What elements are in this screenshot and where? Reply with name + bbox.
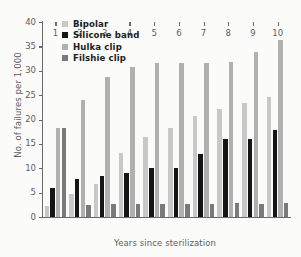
bar-hulka-clip-year-9 bbox=[254, 52, 259, 217]
bar-silicone-band-year-3 bbox=[100, 176, 105, 217]
x-axis-tick-mark bbox=[253, 22, 254, 26]
y-axis-tick-label: 30 bbox=[25, 65, 36, 75]
y-axis-title: No. of failures per 1,000 bbox=[11, 5, 25, 205]
x-axis-tick-mark bbox=[179, 22, 180, 26]
bar-filshie-clip-year-1 bbox=[62, 128, 67, 217]
bar-hulka-clip-year-5 bbox=[155, 63, 160, 217]
y-axis-tick-label: 40 bbox=[25, 17, 36, 27]
bar-silicone-band-year-2 bbox=[75, 179, 80, 217]
bar-filshie-clip-year-4 bbox=[136, 204, 141, 217]
bar-bipolar-year-1 bbox=[45, 206, 50, 217]
y-axis-tick-mark bbox=[39, 120, 43, 121]
bar-hulka-clip-year-4 bbox=[130, 67, 135, 217]
bar-silicone-band-year-8 bbox=[223, 139, 228, 217]
bar-filshie-clip-year-3 bbox=[111, 204, 116, 217]
bar-filshie-clip-year-8 bbox=[235, 203, 240, 217]
legend-label: Silicone band bbox=[73, 30, 139, 40]
bar-hulka-clip-year-3 bbox=[105, 77, 110, 217]
legend-swatch-icon bbox=[62, 32, 68, 38]
x-axis-tick-label: 10 bbox=[268, 28, 288, 38]
y-axis-tick-mark bbox=[39, 71, 43, 72]
bar-hulka-clip-year-8 bbox=[229, 62, 234, 217]
y-axis-tick-label: 25 bbox=[25, 90, 36, 100]
y-axis-tick-mark bbox=[39, 46, 43, 47]
x-axis-tick-label: 5 bbox=[144, 28, 164, 38]
y-axis-tick-mark bbox=[39, 22, 43, 23]
legend-item-filshie-clip: Filshie clip bbox=[62, 53, 139, 65]
bar-filshie-clip-year-6 bbox=[185, 204, 190, 217]
bar-silicone-band-year-5 bbox=[149, 168, 154, 217]
y-axis-tick-label: 20 bbox=[25, 114, 36, 124]
bar-filshie-clip-year-9 bbox=[259, 204, 264, 217]
y-axis-tick-mark bbox=[39, 217, 43, 218]
legend-swatch-icon bbox=[62, 55, 68, 61]
bar-hulka-clip-year-1 bbox=[56, 128, 61, 217]
bar-hulka-clip-year-10 bbox=[278, 40, 283, 217]
x-axis-tick-mark bbox=[278, 22, 279, 26]
x-axis-tick-label: 7 bbox=[194, 28, 214, 38]
bar-filshie-clip-year-5 bbox=[160, 204, 165, 217]
legend-label: Hulka clip bbox=[73, 42, 122, 52]
bar-hulka-clip-year-7 bbox=[204, 63, 209, 217]
bar-silicone-band-year-7 bbox=[198, 154, 203, 217]
bar-bipolar-year-5 bbox=[143, 137, 148, 217]
bar-silicone-band-year-4 bbox=[124, 173, 129, 217]
bar-hulka-clip-year-6 bbox=[179, 63, 184, 217]
x-axis-tick-label: 9 bbox=[243, 28, 263, 38]
x-axis-tick-mark bbox=[228, 22, 229, 26]
bar-bipolar-year-4 bbox=[119, 153, 124, 217]
failure-rate-bar-chart: No. of failures per 1,000 Years since st… bbox=[0, 0, 301, 257]
bar-silicone-band-year-10 bbox=[273, 130, 278, 217]
legend-item-bipolar: Bipolar bbox=[62, 18, 139, 30]
y-axis-tick-mark bbox=[39, 168, 43, 169]
bar-bipolar-year-2 bbox=[69, 194, 74, 217]
bar-bipolar-year-7 bbox=[193, 116, 198, 217]
bar-hulka-clip-year-2 bbox=[81, 100, 86, 217]
bar-bipolar-year-9 bbox=[242, 103, 247, 217]
y-axis-tick-label: 0 bbox=[31, 212, 36, 222]
bar-silicone-band-year-1 bbox=[50, 188, 55, 217]
bar-bipolar-year-8 bbox=[217, 109, 222, 217]
y-axis-tick-mark bbox=[39, 144, 43, 145]
legend-label: Bipolar bbox=[73, 19, 108, 29]
x-axis-tick-mark bbox=[55, 22, 56, 26]
x-axis-tick-mark bbox=[204, 22, 205, 26]
legend-item-hulka-clip: Hulka clip bbox=[62, 41, 139, 53]
bar-filshie-clip-year-2 bbox=[86, 205, 91, 217]
legend-swatch-icon bbox=[62, 21, 68, 27]
y-axis-tick-mark bbox=[39, 193, 43, 194]
bar-bipolar-year-10 bbox=[267, 97, 272, 217]
x-axis-tick-label: 8 bbox=[218, 28, 238, 38]
legend-label: Filshie clip bbox=[73, 53, 126, 63]
y-axis-tick-label: 35 bbox=[25, 41, 36, 51]
bar-filshie-clip-year-7 bbox=[210, 204, 215, 217]
y-axis-tick-label: 5 bbox=[31, 187, 36, 197]
x-axis-title: Years since sterilization bbox=[40, 238, 290, 248]
x-axis-tick-label: 6 bbox=[169, 28, 189, 38]
bar-silicone-band-year-9 bbox=[248, 139, 253, 217]
bar-filshie-clip-year-10 bbox=[284, 203, 289, 217]
legend-item-silicone-band: Silicone band bbox=[62, 30, 139, 42]
x-axis-tick-mark bbox=[154, 22, 155, 26]
bar-silicone-band-year-6 bbox=[174, 168, 179, 217]
legend-swatch-icon bbox=[62, 44, 68, 50]
bar-bipolar-year-6 bbox=[168, 128, 173, 217]
chart-legend: BipolarSilicone bandHulka clipFilshie cl… bbox=[62, 18, 139, 64]
bar-bipolar-year-3 bbox=[94, 184, 99, 217]
y-axis-tick-mark bbox=[39, 95, 43, 96]
y-axis-tick-label: 15 bbox=[25, 138, 36, 148]
y-axis-tick-label: 10 bbox=[25, 163, 36, 173]
